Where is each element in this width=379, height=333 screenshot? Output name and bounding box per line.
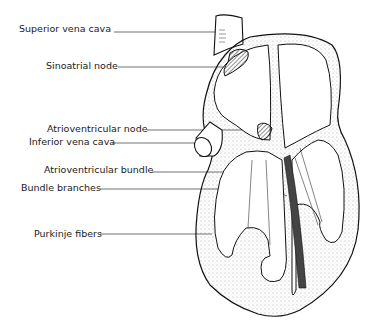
- heart-diagram: [0, 0, 379, 333]
